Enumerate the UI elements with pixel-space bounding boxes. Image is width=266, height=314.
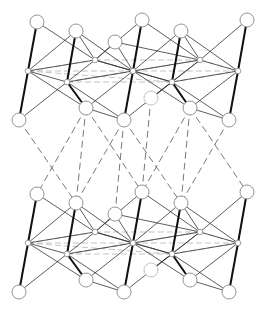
bond [37,194,95,232]
inter-layer-bond [86,108,142,192]
thick-bond [28,22,37,71]
bond [172,82,229,120]
bond [133,60,200,71]
bond [200,232,238,243]
cation-atom [169,251,175,257]
bond [181,31,238,71]
bond [133,71,172,82]
thick-bond [238,192,247,243]
cation-atom [92,57,98,63]
bond [67,71,133,82]
anion-atom [69,24,83,38]
inter-layer-bond [181,108,190,203]
anion-atom [174,24,188,38]
cation-atom [130,240,136,246]
bond [190,243,238,280]
thick-bond [19,243,28,292]
anion-atom [30,15,44,29]
thick-bond [229,243,238,292]
anion-atom [69,196,83,210]
anion-atom [144,91,158,105]
bond [133,243,172,254]
cation-atom [130,68,136,74]
bond [200,20,247,60]
cation-atom [92,229,98,235]
anion-atom [79,273,93,287]
inter-layer-bond [115,120,124,214]
bond [181,203,238,243]
cation-atom [235,68,241,74]
anion-atom [117,285,131,299]
anion-atom [222,113,236,127]
anion-atom [108,207,122,221]
anion-atom [174,196,188,210]
bond [86,71,133,108]
anion-atom [117,113,131,127]
cation-atom [64,79,70,85]
bond [200,192,247,232]
bond [19,82,67,120]
bond [133,232,200,243]
cation-atom [197,57,203,63]
thick-bond [133,20,142,71]
anion-atom [183,273,197,287]
bond [67,243,133,254]
thick-bond [238,20,247,71]
thick-bond [19,71,28,120]
inter-layer-bond [124,120,181,203]
thick-bond [133,192,142,243]
anion-atom [79,101,93,115]
anion-atom [108,35,122,49]
bond [172,254,229,292]
anion-atom [12,285,26,299]
lower-layer [12,185,254,299]
anion-atom [12,113,26,127]
cation-atom [64,251,70,257]
bond [86,243,133,280]
anion-atom [135,185,149,199]
bond [28,232,95,243]
anion-atom [240,13,254,27]
bond [37,22,95,60]
cation-atom [197,229,203,235]
anion-atom [183,101,197,115]
bond [200,60,238,71]
anion-atom [144,263,158,277]
thick-bond [172,31,181,82]
crystal-structure-diagram [0,0,266,314]
thick-bond [28,194,37,243]
anion-atom [135,13,149,27]
thick-bond [172,203,181,254]
inter-layer-bond [190,108,247,192]
bond [28,60,95,71]
inter-layer-bond [37,108,86,194]
anion-atom [240,185,254,199]
bond [172,71,238,82]
inter-layer-bond [181,120,229,203]
cation-atom [25,240,31,246]
inter-layer-bond [19,120,76,203]
thick-bond [229,71,238,120]
bond [190,71,238,108]
bond [19,254,67,292]
bond [172,243,238,254]
cation-atom [25,68,31,74]
anion-atom [30,187,44,201]
upper-layer [12,13,254,127]
cation-atom [235,240,241,246]
cation-atom [169,79,175,85]
anion-atom [222,285,236,299]
